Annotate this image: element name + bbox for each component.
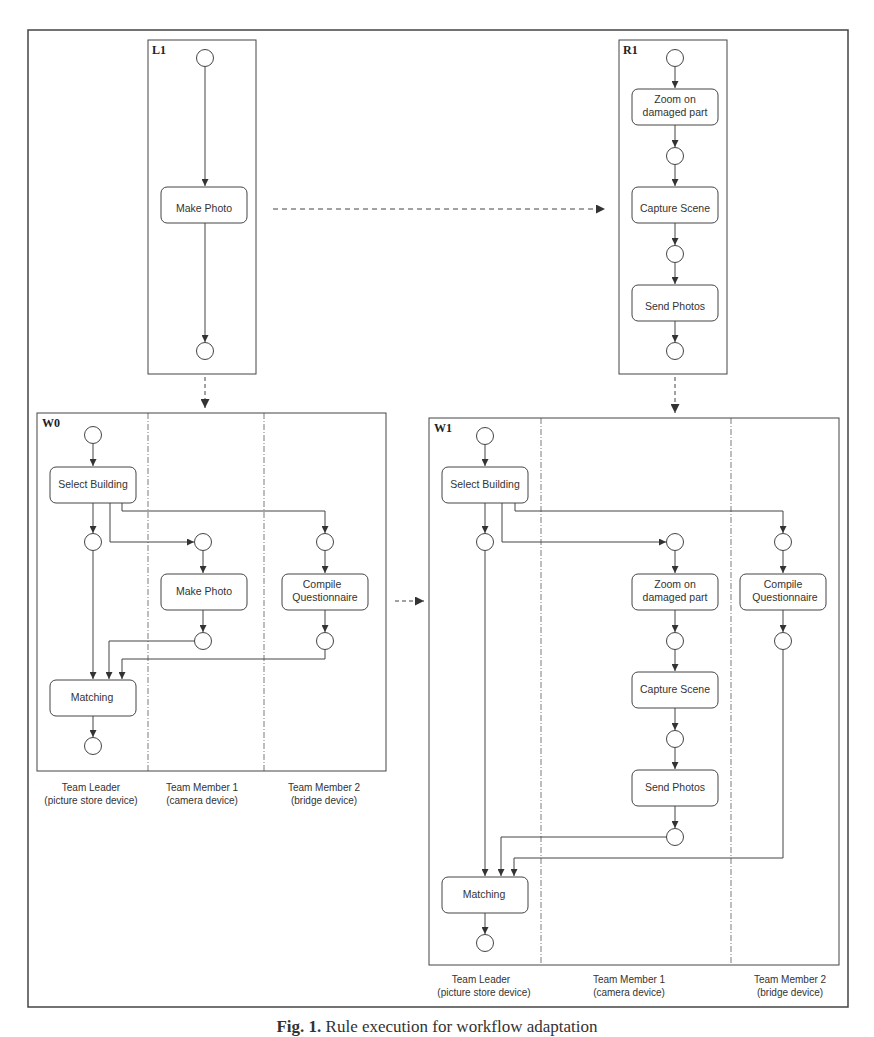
lane-label-team-member-2-device: (bridge device)	[757, 987, 823, 998]
activity-compile-line1: Compile	[303, 578, 342, 590]
activity-select-building: Select Building	[450, 478, 520, 490]
activity-zoom-line1: Zoom on	[654, 578, 696, 590]
activity-capture-scene: Capture Scene	[640, 683, 710, 695]
lane-label-team-leader-device: (picture store device)	[437, 987, 530, 998]
figure-caption-text: Rule execution for workflow adaptation	[326, 1017, 598, 1036]
activity-send-photos: Send Photos	[645, 781, 705, 793]
workflow-W1-title: W1	[434, 421, 452, 435]
activity-zoom-line1: Zoom on	[654, 93, 696, 105]
figure-frame	[28, 30, 848, 1007]
lane-label-team-member-2: Team Member 2	[288, 782, 361, 793]
activity-zoom-line2: damaged part	[643, 106, 708, 118]
lane-label-team-leader-device: (picture store device)	[44, 795, 137, 806]
lane-label-team-member-1-device: (camera device)	[593, 987, 665, 998]
activity-capture-scene: Capture Scene	[640, 202, 710, 214]
activity-send-photos: Send Photos	[645, 300, 705, 312]
figure-caption: Fig. 1. Rule execution for workflow adap…	[0, 1017, 874, 1037]
lane-label-team-leader: Team Leader	[62, 782, 121, 793]
figure-caption-number: Fig. 1.	[276, 1017, 321, 1036]
activity-matching: Matching	[463, 888, 506, 900]
activity-select-building: Select Building	[58, 478, 128, 490]
workflow-W1	[429, 418, 839, 965]
activity-make-photo: Make Photo	[176, 202, 232, 214]
activity-compile-line1: Compile	[764, 578, 803, 590]
activity-make-photo: Make Photo	[176, 585, 232, 597]
activity-matching: Matching	[71, 691, 114, 703]
lane-label-team-member-1-device: (camera device)	[166, 795, 238, 806]
lane-label-team-member-1: Team Member 1	[593, 974, 666, 985]
activity-zoom-line2: damaged part	[643, 591, 708, 603]
rule-L1-title: L1	[152, 43, 166, 57]
lane-label-team-member-2-device: (bridge device)	[291, 795, 357, 806]
lane-label-team-member-1: Team Member 1	[166, 782, 239, 793]
rule-R1-title: R1	[623, 43, 638, 57]
workflow-W0-title: W0	[42, 416, 60, 430]
lane-label-team-leader: Team Leader	[452, 974, 511, 985]
activity-compile-line2: Questionnaire	[292, 591, 358, 603]
lane-label-team-member-2: Team Member 2	[754, 974, 827, 985]
activity-compile-line2: Questionnaire	[752, 591, 818, 603]
